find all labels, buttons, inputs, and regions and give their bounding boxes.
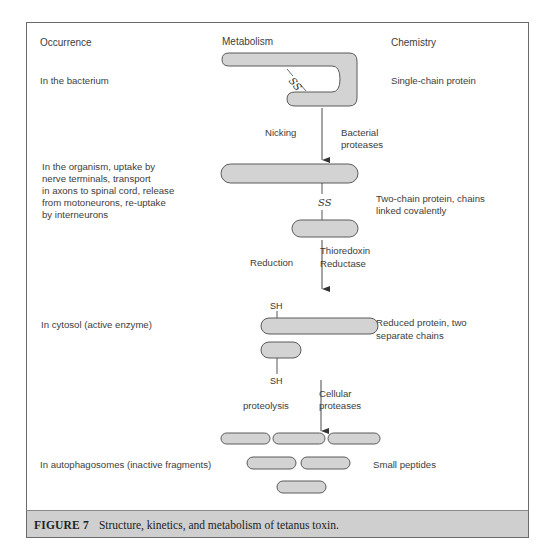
reduced-heavy-chain-shape: [261, 318, 378, 334]
peptide-fragments: [221, 433, 380, 493]
thiol-label-top: SH: [270, 301, 283, 311]
peptide-fragment: [301, 457, 350, 469]
reduced-light-chain-shape: [261, 342, 301, 358]
peptide-fragment: [247, 457, 296, 469]
peptide-fragment: [273, 433, 325, 444]
figure-label: FIGURE 7: [34, 519, 89, 531]
peptide-fragment: [328, 433, 380, 444]
heavy-chain-shape: [221, 164, 358, 183]
figure-caption-text: Structure, kinetics, and metabolism of t…: [99, 519, 339, 531]
figure-caption: FIGURE 7Structure, kinetics, and metabol…: [34, 519, 339, 531]
disulfide-label: SS: [287, 75, 304, 93]
peptide-fragment: [221, 433, 270, 444]
peptide-fragment: [277, 481, 326, 493]
disulfide-label: SS: [318, 197, 332, 208]
metabolism-diagram: SS SS SH SH: [0, 0, 552, 558]
disulfide-bond-line: [287, 69, 293, 76]
light-chain-shape: [292, 220, 358, 237]
thiol-label-bottom: SH: [270, 376, 283, 386]
